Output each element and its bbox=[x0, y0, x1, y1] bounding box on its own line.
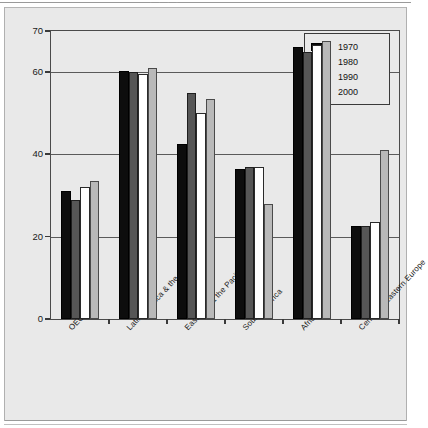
bar bbox=[361, 226, 371, 319]
bar bbox=[312, 45, 322, 319]
bar bbox=[119, 71, 129, 319]
y-tick-label-40: 40 bbox=[32, 148, 43, 159]
y-tick-mark-70 bbox=[45, 30, 50, 32]
bar bbox=[187, 93, 197, 319]
bar bbox=[148, 68, 158, 319]
bar bbox=[293, 47, 303, 319]
legend-label: 1990 bbox=[338, 72, 358, 82]
bar bbox=[206, 99, 216, 319]
bar bbox=[61, 191, 71, 319]
bar bbox=[370, 222, 380, 319]
bar bbox=[380, 150, 390, 319]
y-tick-mark-0 bbox=[45, 318, 50, 320]
bar bbox=[71, 200, 81, 319]
chart-canvas: 020406070 1970198019902000 OECDLatin Ame… bbox=[5, 8, 406, 420]
scan-artifact-text: . . . . bbox=[150, 0, 290, 3]
bar bbox=[90, 181, 100, 319]
bar bbox=[235, 169, 245, 319]
x-tick-mark bbox=[166, 319, 168, 324]
x-tick-mark bbox=[108, 319, 110, 324]
bar bbox=[138, 74, 148, 319]
bar bbox=[177, 144, 187, 319]
bar bbox=[196, 113, 206, 319]
y-tick-label-60: 60 bbox=[32, 66, 43, 77]
y-tick-mark-40 bbox=[45, 153, 50, 155]
frame-rule-bottom-inner bbox=[4, 424, 407, 425]
y-tick-label-20: 20 bbox=[32, 230, 43, 241]
bar bbox=[80, 187, 90, 319]
x-tick-mark bbox=[282, 319, 284, 324]
legend-label: 2000 bbox=[338, 87, 358, 97]
y-tick-label-70: 70 bbox=[32, 25, 43, 36]
y-axis-tick-labels: 020406070 bbox=[5, 8, 43, 428]
legend-label: 1970 bbox=[338, 42, 358, 52]
y-tick-mark-60 bbox=[45, 71, 50, 73]
frame-rule-right bbox=[406, 7, 407, 421]
bar bbox=[245, 167, 255, 319]
bar bbox=[254, 167, 264, 319]
bar bbox=[351, 226, 361, 319]
x-tick-mark bbox=[340, 319, 342, 324]
x-tick-mark bbox=[398, 319, 400, 324]
bar bbox=[129, 72, 139, 319]
bar-group bbox=[51, 31, 109, 319]
legend-label: 1980 bbox=[338, 57, 358, 67]
y-tick-mark-20 bbox=[45, 236, 50, 238]
bar bbox=[322, 41, 332, 319]
bar-group bbox=[109, 31, 167, 319]
bar bbox=[303, 52, 313, 319]
y-tick-label-0: 0 bbox=[38, 313, 43, 324]
x-tick-mark bbox=[224, 319, 226, 324]
bar bbox=[264, 204, 274, 319]
frame-rule-bottom-outer bbox=[4, 420, 407, 421]
